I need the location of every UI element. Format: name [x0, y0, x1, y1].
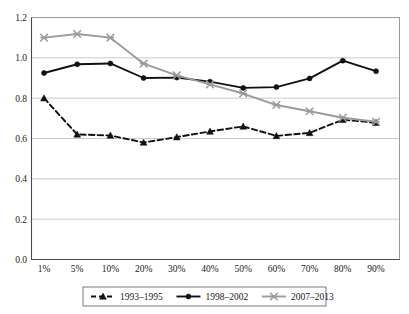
line-chart: 0.00.20.40.60.81.01.2 1%5%10%20%30%40%50…	[0, 0, 409, 314]
y-tick-label: 0.4	[15, 174, 27, 184]
series-line	[42, 58, 379, 90]
x-tick-label: 90%	[367, 264, 385, 274]
data-point-circle	[141, 76, 146, 81]
data-series-group	[40, 30, 380, 145]
data-point-circle	[374, 69, 379, 74]
data-point-x	[140, 60, 148, 68]
y-tick-label: 0.6	[15, 134, 27, 144]
x-tick-label: 20%	[135, 264, 153, 274]
data-point-circle	[274, 85, 279, 90]
x-tick-label: 60%	[268, 264, 286, 274]
data-point-x	[306, 107, 314, 115]
series-line	[40, 30, 380, 125]
y-tick-label: 1.0	[15, 53, 27, 63]
data-point-x	[273, 101, 281, 109]
data-point-circle	[186, 294, 191, 299]
data-point-x	[73, 30, 81, 38]
series-line	[41, 95, 380, 146]
y-axis-tick-labels: 0.00.20.40.60.81.01.2	[15, 13, 27, 265]
y-tick-label: 1.2	[15, 13, 27, 23]
x-tick-label: 40%	[201, 264, 219, 274]
legend-label: 1998–2002	[205, 292, 248, 302]
data-point-x	[239, 90, 247, 98]
legend-label: 1993–1995	[120, 292, 163, 302]
series-path	[44, 34, 376, 122]
y-tick-label: 0.2	[15, 215, 27, 225]
legend-label: 2007–2013	[291, 292, 334, 302]
x-tick-label: 5%	[71, 264, 84, 274]
data-point-x	[40, 34, 48, 42]
data-point-x	[107, 34, 115, 42]
data-point-circle	[340, 58, 345, 63]
data-point-circle	[75, 62, 80, 67]
chart-legend: 1993–19951998–20022007–2013	[83, 287, 334, 306]
data-point-circle	[307, 76, 312, 81]
y-tick-label: 0.8	[15, 94, 27, 104]
data-point-circle	[42, 70, 47, 75]
data-point-circle	[241, 85, 246, 90]
chart-container: 0.00.20.40.60.81.01.2 1%5%10%20%30%40%50…	[0, 0, 409, 314]
y-tick-label: 0.0	[15, 255, 27, 265]
x-tick-label: 10%	[102, 264, 120, 274]
x-tick-label: 1%	[38, 264, 51, 274]
x-tick-label: 50%	[234, 264, 252, 274]
data-point-circle	[108, 61, 113, 66]
x-tick-label: 70%	[301, 264, 319, 274]
x-tick-label: 80%	[334, 264, 352, 274]
series-path	[44, 98, 376, 142]
x-axis-tick-labels: 1%5%10%20%30%40%50%60%70%80%90%	[38, 264, 385, 274]
x-tick-label: 30%	[168, 264, 186, 274]
